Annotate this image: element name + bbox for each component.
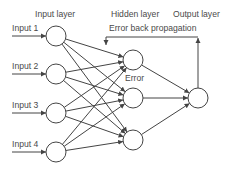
hidden-node-3 bbox=[123, 130, 143, 150]
input-label-2: Input 2 bbox=[12, 61, 39, 71]
input-node-3 bbox=[46, 103, 66, 123]
connection-i2-h1 bbox=[66, 62, 123, 72]
error-label: Error bbox=[125, 73, 144, 83]
input-node-4 bbox=[46, 142, 66, 162]
output-layer-label: Output layer bbox=[173, 9, 220, 19]
input-arrows: Input 1Input 2Input 3Input 4 bbox=[12, 23, 46, 152]
connection-h1-o1 bbox=[142, 65, 190, 93]
connection-i1-h1 bbox=[66, 39, 124, 57]
input-layer-label: Input layer bbox=[35, 9, 75, 19]
back-propagation-label: Error back propagation bbox=[109, 23, 197, 33]
input-label-3: Input 3 bbox=[12, 100, 39, 110]
input-node-2 bbox=[46, 64, 66, 84]
hidden-layer-label: Hidden layer bbox=[111, 9, 159, 19]
input-node-1 bbox=[46, 26, 66, 46]
connection-i4-h3 bbox=[66, 142, 123, 151]
layer-labels: Input layer Hidden layer Output layer bbox=[35, 9, 220, 19]
input-label-1: Input 1 bbox=[12, 23, 39, 33]
connection-i3-h3 bbox=[65, 116, 123, 136]
input-label-4: Input 4 bbox=[12, 139, 39, 149]
diagram-canvas: Input layer Hidden layer Output layer In… bbox=[0, 0, 232, 170]
output-node-1 bbox=[188, 88, 208, 108]
back-propagation-arrow bbox=[106, 37, 198, 45]
connection-h3-o1 bbox=[141, 103, 189, 134]
hidden-node-1 bbox=[123, 50, 143, 70]
hidden-node-2 bbox=[123, 88, 143, 108]
neural-network-diagram: Input layer Hidden layer Output layer In… bbox=[0, 0, 232, 170]
